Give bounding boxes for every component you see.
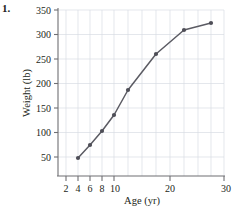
y-tick-label: 350 xyxy=(36,5,51,16)
x-tick-label: 8 xyxy=(100,183,105,194)
x-tick-label: 30 xyxy=(221,183,231,194)
grid-lines xyxy=(58,10,224,176)
data-point xyxy=(76,156,80,160)
x-tick-label: 4 xyxy=(76,183,81,194)
data-point xyxy=(182,28,186,32)
y-tick-label: 250 xyxy=(36,54,51,65)
figure-root: 1. xyxy=(0,0,235,208)
x-tick-label: 6 xyxy=(88,183,93,194)
y-tick-label: 200 xyxy=(36,78,51,89)
data-point xyxy=(126,88,130,92)
chart-svg: 350 300 250 200 150 100 50 2 4 6 8 xyxy=(0,0,235,208)
data-point xyxy=(88,143,92,147)
x-axis-ticks: 2 4 6 8 10 20 30 xyxy=(64,176,232,194)
y-axis-label: Weight (lb) xyxy=(21,69,33,117)
x-axis-label: Age (yr) xyxy=(124,195,160,207)
y-axis-ticks: 350 300 250 200 150 100 50 xyxy=(36,5,58,163)
data-point xyxy=(209,21,213,25)
line-chart: 350 300 250 200 150 100 50 2 4 6 8 xyxy=(0,0,235,208)
x-tick-label: 20 xyxy=(165,183,175,194)
data-point xyxy=(112,113,116,117)
data-polyline xyxy=(78,23,211,158)
data-point xyxy=(100,129,104,133)
x-tick-label: 2 xyxy=(64,183,69,194)
y-tick-label: 100 xyxy=(36,127,51,138)
data-series-weight xyxy=(76,21,213,160)
x-tick-label: 10 xyxy=(110,183,120,194)
y-tick-label: 50 xyxy=(41,152,51,163)
y-tick-label: 150 xyxy=(36,103,51,114)
y-tick-label: 300 xyxy=(36,29,51,40)
data-point xyxy=(154,52,158,56)
axes xyxy=(57,8,225,176)
